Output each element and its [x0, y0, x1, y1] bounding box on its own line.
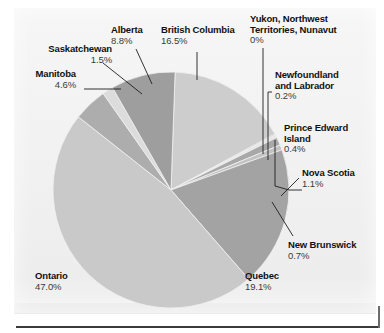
callout-new-brunswick-pct: 0.7%	[288, 251, 380, 262]
callout-ontario-pct: 47.0%	[35, 282, 95, 293]
bottom-rule	[16, 326, 380, 328]
callout-newfoundland-name-line1: Newfoundland	[275, 70, 375, 81]
callout-yukon-pct: 0%	[250, 35, 360, 46]
callout-manitoba-name: Manitoba	[8, 69, 76, 80]
callout-quebec-name: Quebec	[245, 271, 305, 282]
callout-pei-name-line1: Prince Edward	[284, 123, 378, 134]
callout-yukon: Yukon, Northwest Territories, Nunavut 0%	[250, 14, 360, 46]
callout-british-columbia-name: British Columbia	[161, 25, 257, 36]
callout-ontario-name: Ontario	[35, 271, 95, 282]
callout-yukon-name-line1: Yukon, Northwest	[250, 14, 360, 25]
callout-manitoba: Manitoba 4.6%	[8, 69, 76, 90]
callout-saskatchewan: Saskatchewan 1.5%	[8, 44, 112, 65]
callout-british-columbia-pct: 16.5%	[161, 36, 257, 47]
callout-newfoundland: Newfoundland and Labrador 0.2%	[275, 70, 375, 102]
callout-yukon-name-line2: Territories, Nunavut	[250, 25, 360, 36]
callout-nova-scotia-pct: 1.1%	[302, 179, 382, 190]
callout-quebec-pct: 19.1%	[245, 282, 305, 293]
callout-pei: Prince Edward Island 0.4%	[284, 123, 378, 155]
callout-quebec: Quebec 19.1%	[245, 271, 305, 292]
figure-stage: British Columbia 16.5%Newfoundland and L…	[0, 0, 384, 333]
callout-nova-scotia: Nova Scotia 1.1%	[302, 168, 382, 189]
callout-saskatchewan-pct: 1.5%	[8, 55, 112, 66]
callout-newfoundland-pct: 0.2%	[275, 91, 375, 102]
callout-saskatchewan-name: Saskatchewan	[8, 44, 112, 55]
right-rule	[378, 306, 380, 328]
callout-new-brunswick-name: New Brunswick	[288, 240, 380, 251]
callout-british-columbia: British Columbia 16.5%	[161, 25, 257, 46]
callout-ontario: Ontario 47.0%	[35, 271, 95, 292]
callout-pei-pct: 0.4%	[284, 144, 378, 155]
callout-manitoba-pct: 4.6%	[8, 80, 76, 91]
callout-nova-scotia-name: Nova Scotia	[302, 168, 382, 179]
callout-new-brunswick: New Brunswick 0.7%	[288, 240, 380, 261]
